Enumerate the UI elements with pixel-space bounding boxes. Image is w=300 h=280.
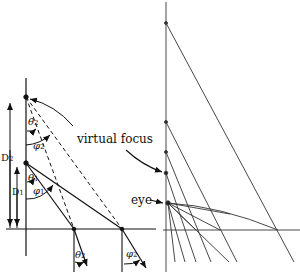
eye-label: eye [131, 194, 152, 206]
theta2-arc [27, 129, 36, 131]
theta2-label: θ2 [28, 117, 39, 127]
virtual-focus-label: virtual focus [77, 133, 153, 145]
eye-point [166, 201, 170, 205]
D2-label: D2 [1, 153, 14, 163]
refracted-ray-theta2 [74, 229, 87, 266]
theta2-bottom-arc [75, 262, 84, 263]
phi2-label: φ2 [33, 141, 44, 151]
eye-ray-2 [168, 203, 185, 262]
virtual-focus-point-right [164, 171, 168, 175]
eye-ray-curve [168, 203, 278, 230]
virtual-focus-pointer-right [126, 150, 162, 172]
phi2-bottom-arc [124, 260, 140, 264]
ray-from-focus-2 [166, 122, 237, 262]
eye-ray-4 [168, 203, 220, 230]
eye-ray-1 [168, 203, 175, 262]
dashed-ray-phi2 [26, 97, 122, 229]
theta2-bottom-label: θ2 [75, 250, 86, 260]
phi1-label: φ1 [33, 186, 44, 196]
D1-label: D1 [12, 188, 24, 197]
theta1-label: θ1 [28, 173, 39, 183]
source-point [24, 161, 28, 165]
ray-from-focus-top [166, 23, 294, 262]
phi2-bottom-label: φ2 [126, 249, 137, 259]
virtual-focus-point [24, 95, 28, 99]
